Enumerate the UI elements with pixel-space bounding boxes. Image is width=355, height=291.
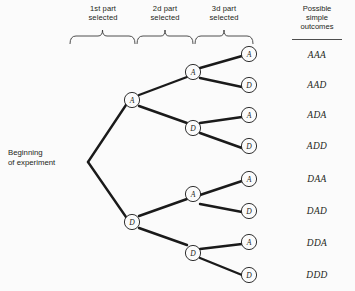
branch-root-D xyxy=(88,162,126,217)
branch-DA-A xyxy=(200,181,242,195)
branch-root-A xyxy=(88,105,126,162)
tree-diagram: 1st part selected 2d part selected 3d pa… xyxy=(0,0,355,291)
node-label: A xyxy=(190,68,196,77)
leaf-label: A xyxy=(246,175,252,184)
node-label: A xyxy=(190,190,196,199)
leaf-label: A xyxy=(246,111,252,120)
brace-stage-1 xyxy=(70,30,135,44)
leaf-label: D xyxy=(245,142,252,151)
node-label: D xyxy=(189,249,196,258)
brace-stage-3 xyxy=(195,30,253,44)
leaf-label: D xyxy=(245,207,252,216)
brace-stage-2 xyxy=(137,30,193,44)
tree-canvas: A D A D A D A D A D A xyxy=(0,0,355,291)
branch-D-A xyxy=(139,199,187,216)
branch-AA-D xyxy=(200,78,242,87)
leaf-label: D xyxy=(245,81,252,90)
branch-DD-D xyxy=(200,258,242,275)
branch-AA-A xyxy=(200,56,242,68)
branch-DD-A xyxy=(200,244,242,249)
node-group-level-2: A D A D xyxy=(185,64,200,260)
branch-D-D xyxy=(139,228,187,245)
leaf-label: A xyxy=(246,238,252,247)
node-group-level-3: A D A D A D A D xyxy=(241,46,256,282)
node-label: D xyxy=(128,218,135,227)
branch-A-D xyxy=(139,106,187,123)
node-label: D xyxy=(189,124,196,133)
branch-AD-A xyxy=(200,117,242,123)
branch-DA-D xyxy=(200,204,242,212)
stage-braces xyxy=(70,30,253,44)
leaf-label: A xyxy=(246,50,252,59)
branch-AD-D xyxy=(200,133,242,148)
branch-lines xyxy=(88,56,242,275)
node-label: A xyxy=(129,96,135,105)
leaf-label: D xyxy=(245,271,252,280)
branch-A-A xyxy=(139,77,187,95)
node-group-level-1: A D xyxy=(124,92,139,229)
